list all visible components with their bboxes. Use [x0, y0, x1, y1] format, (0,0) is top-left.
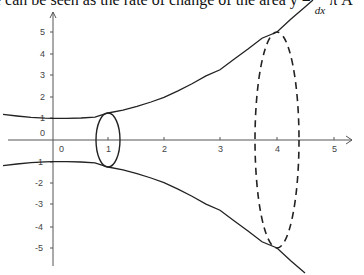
- svg-text:-2: -2: [35, 178, 43, 188]
- svg-text:0: 0: [40, 128, 45, 138]
- svg-text:5: 5: [40, 27, 45, 37]
- svg-text:1: 1: [106, 144, 111, 154]
- svg-text:5: 5: [332, 144, 337, 154]
- svg-text:-3: -3: [35, 199, 43, 209]
- axes: [8, 12, 352, 266]
- svg-text:4: 4: [275, 144, 280, 154]
- x-tick-labels: 0 1 2 3 4 5: [59, 144, 337, 154]
- svg-text:2: 2: [162, 144, 167, 154]
- svg-text:-4: -4: [35, 222, 43, 232]
- svg-text:3: 3: [40, 70, 45, 80]
- svg-text:4: 4: [40, 49, 45, 59]
- upper-curve: [3, 0, 313, 118]
- svg-text:3: 3: [218, 144, 223, 154]
- svg-text:-5: -5: [35, 243, 43, 253]
- solid-of-revolution-chart: 0 1 2 3 4 5 5 4 3 2 1 0 -1 -2 -3 -4 -5: [0, 0, 364, 275]
- svg-text:0: 0: [59, 144, 64, 154]
- lower-curve: [3, 162, 305, 273]
- svg-text:2: 2: [40, 92, 45, 102]
